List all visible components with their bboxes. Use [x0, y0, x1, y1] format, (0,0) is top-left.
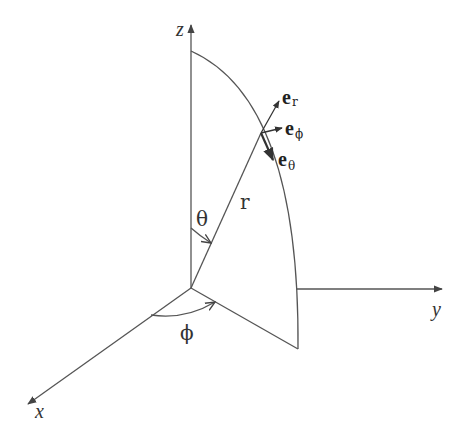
e-r-vector — [261, 101, 279, 133]
z-axis-label: z — [175, 18, 184, 40]
spherical-coordinates-diagram: z x y r θ ϕ er eϕ eθ — [0, 0, 463, 434]
e-phi-label: eϕ — [285, 117, 303, 141]
x-axis — [28, 288, 191, 404]
e-r-label: er — [282, 86, 298, 109]
radius-label: r — [240, 190, 250, 214]
projection-line — [191, 288, 298, 349]
y-axis-label: y — [430, 298, 441, 321]
theta-label: θ — [196, 207, 208, 231]
e-theta-label: eθ — [278, 148, 295, 173]
phi-label: ϕ — [180, 321, 194, 345]
x-axis-label: x — [34, 400, 44, 422]
